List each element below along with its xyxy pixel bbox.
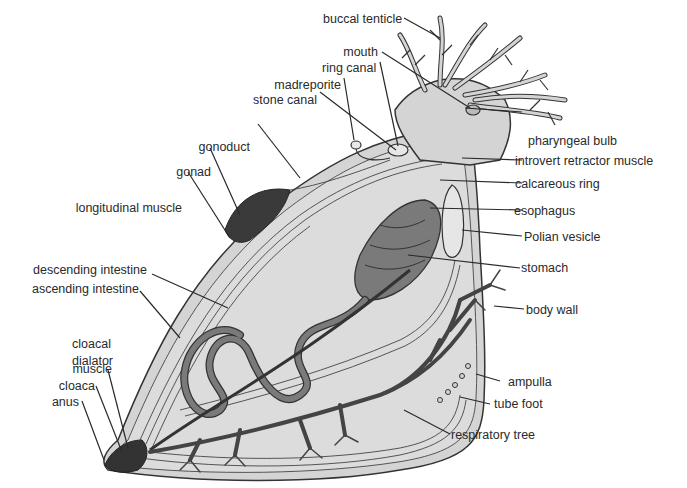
label-mouth: mouth [343, 45, 378, 59]
label-calcareous-ring: calcareous ring [515, 177, 600, 191]
label-longitudinal-muscle: longitudinal muscle [76, 201, 182, 215]
label-stomach: stomach [521, 261, 568, 275]
label-ring-canal: ring canal [322, 61, 376, 75]
label-anus: anus [52, 395, 79, 409]
label-ampulla: ampulla [508, 375, 552, 389]
label-pharyngeal-bulb: pharyngeal bulb [528, 134, 617, 148]
label-descending-intestine: descending intestine [33, 263, 147, 277]
cloaca [105, 440, 147, 472]
label-introvert-retractor-muscle: introvert retractor muscle [515, 154, 653, 168]
label-body-wall: body wall [526, 303, 578, 317]
label-gonad: gonad [176, 165, 211, 179]
label-respiratory-tree: respiratory tree [451, 428, 535, 442]
label-gonoduct: gonoduct [199, 140, 251, 154]
label-cloacal-dialator-muscle-3: muscle [72, 362, 112, 376]
label-cloaca: cloaca [59, 379, 95, 393]
label-stone-canal: stone canal [253, 93, 317, 107]
body [104, 130, 485, 481]
label-polian-vesicle: Polian vesicle [524, 230, 600, 244]
label-cloacal-dialator-muscle-1: cloacal [72, 337, 111, 351]
label-ascending-intestine: ascending intestine [32, 282, 139, 296]
label-madreporite: madreporite [274, 78, 341, 92]
sea-cucumber-anatomy-diagram: buccal tenticle mouth ring canal madrepo… [0, 0, 687, 488]
label-buccal-tenticle: buccal tenticle [323, 12, 402, 26]
label-esophagus: esophagus [514, 204, 575, 218]
label-tube-foot: tube foot [494, 397, 543, 411]
